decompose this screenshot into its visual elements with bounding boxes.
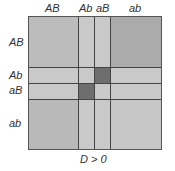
col-label-ab: ab bbox=[129, 3, 141, 14]
row-label-Ab: Ab bbox=[9, 70, 22, 81]
col-label-aB: aB bbox=[96, 3, 109, 14]
row-label-aB: aB bbox=[9, 85, 22, 96]
row-label-ab: ab bbox=[9, 118, 21, 129]
row-label-AB: AB bbox=[9, 37, 24, 48]
caption: D > 0 bbox=[80, 154, 107, 165]
col-label-Ab: Ab bbox=[79, 3, 92, 14]
col-label-AB: AB bbox=[45, 3, 60, 14]
grid-frame bbox=[28, 16, 162, 150]
